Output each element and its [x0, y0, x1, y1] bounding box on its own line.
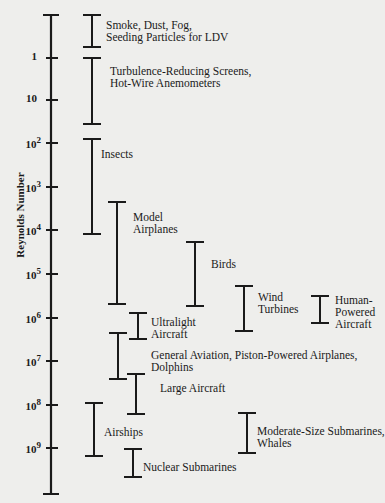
range-label: Smoke, Dust, Fog, Seeding Particles for … [106, 19, 228, 43]
tick-label: 1 [5, 50, 37, 62]
range-label: Human- Powered Aircraft [335, 294, 375, 330]
range-label: Ultralight Aircraft [151, 316, 196, 340]
range-label: Birds [211, 258, 236, 270]
tick-label: 108 [5, 397, 41, 412]
tick-label: 102 [5, 135, 41, 150]
range-label: Airships [104, 426, 143, 438]
range-label: Insects [101, 148, 133, 160]
tick-label: 107 [5, 353, 41, 368]
range-label: Turbulence-Reducing Screens, Hot-Wire An… [110, 65, 251, 89]
tick-label: 104 [5, 222, 41, 237]
range-label: General Aviation, Piston-Powered Airplan… [151, 349, 357, 373]
tick-label: 106 [5, 310, 41, 325]
range-label: Nuclear Submarines [143, 461, 237, 473]
range-label: Large Aircraft [160, 382, 225, 394]
tick-label: 109 [5, 440, 41, 455]
range-label: Wind Turbines [258, 291, 298, 315]
tick-label: 103 [5, 179, 41, 194]
tick-label: 10 [5, 92, 37, 104]
range-label: Model Airplanes [133, 211, 178, 235]
tick-label: 105 [5, 266, 41, 281]
range-label: Moderate-Size Submarines, Whales [257, 425, 385, 449]
